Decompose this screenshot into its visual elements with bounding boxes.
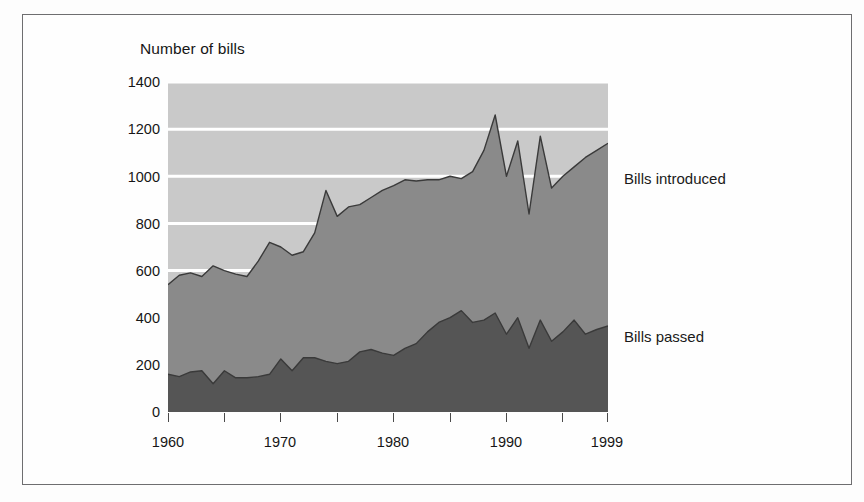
y-tick-label: 1200: [128, 121, 160, 137]
y-tick-label: 200: [136, 357, 160, 373]
y-tick-label: 0: [152, 404, 160, 420]
x-axis-tick: [506, 413, 507, 422]
y-axis-tick-labels: 1400 1200 1000 800 600 400 200 0: [100, 0, 160, 502]
y-tick-label: 400: [136, 310, 160, 326]
plot-area: [168, 82, 608, 412]
series-label-bills-passed: Bills passed: [624, 328, 704, 345]
x-axis-tick: [393, 413, 394, 422]
y-tick-label: 600: [136, 263, 160, 279]
x-axis-tick: [450, 413, 451, 422]
x-axis-tick: [280, 413, 281, 422]
y-tick-label: 1000: [128, 169, 160, 185]
x-tick-label: 1960: [152, 434, 184, 450]
chart-figure: Number of bills 1400 1200 1000 800 600 4…: [0, 0, 864, 502]
y-tick-label: 1400: [128, 74, 160, 90]
x-axis-tick: [168, 413, 169, 422]
area-chart-canvas: [168, 82, 608, 412]
x-tick-label: 1999: [591, 434, 623, 450]
x-tick-label: 1980: [377, 434, 409, 450]
x-tick-label: 1990: [490, 434, 522, 450]
x-tick-label: 1970: [264, 434, 296, 450]
x-axis-tick: [607, 413, 608, 422]
series-label-bills-introduced: Bills introduced: [624, 170, 726, 187]
x-axis-tick: [337, 413, 338, 422]
x-axis-tick: [224, 413, 225, 422]
y-tick-label: 800: [136, 216, 160, 232]
x-axis-tick: [562, 413, 563, 422]
